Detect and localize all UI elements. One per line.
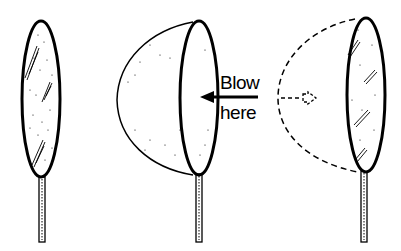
- diagram-canvas: [0, 0, 401, 251]
- stage-flat: [22, 21, 60, 242]
- bubble-bulge: [117, 22, 193, 175]
- film-ellipse: [347, 18, 385, 172]
- stage-return: [278, 18, 385, 242]
- blow-label: Blow: [220, 73, 259, 92]
- hollow-arrow-head-icon: [303, 92, 316, 104]
- film-ellipse: [22, 21, 60, 177]
- stage-blown: [117, 21, 258, 242]
- wand-handle: [196, 174, 202, 242]
- arrow-head-icon: [200, 91, 214, 103]
- here-label: here: [220, 103, 256, 122]
